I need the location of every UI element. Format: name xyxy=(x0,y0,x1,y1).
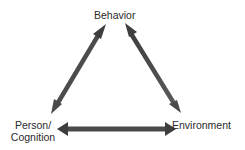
arrowhead-up-icon xyxy=(125,23,137,37)
arrowhead-left-icon xyxy=(57,122,68,136)
node-behavior: Behavior xyxy=(94,9,135,21)
node-person-cognition: Person/ Cognition xyxy=(8,119,58,143)
arrow-behavior-environment xyxy=(125,23,181,113)
node-person-line1: Person/ xyxy=(8,119,58,131)
arrow-person-environment xyxy=(57,122,176,136)
reciprocal-determinism-diagram: Behavior Person/ Cognition Environment xyxy=(0,0,245,150)
node-environment: Environment xyxy=(172,119,231,131)
node-person-line2: Cognition xyxy=(8,131,58,143)
arrow-behavior-person xyxy=(51,24,106,114)
